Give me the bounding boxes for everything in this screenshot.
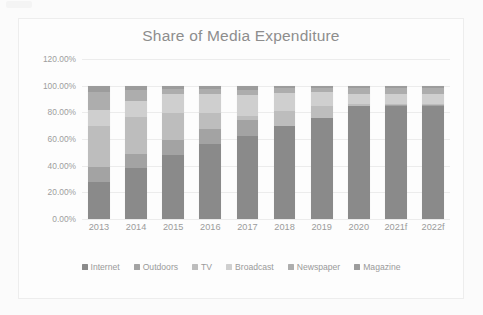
bar-slot-2013 — [82, 59, 116, 219]
bar-segment-newspaper[interactable] — [88, 92, 110, 110]
gridline — [82, 219, 450, 220]
legend-label: Outdoors — [143, 262, 178, 272]
bar-segment-tv[interactable] — [199, 113, 221, 129]
legend-label: Broadcast — [235, 262, 274, 272]
legend-swatch-icon — [192, 264, 198, 270]
bar-segment-broadcast[interactable] — [237, 95, 259, 116]
legend-item-outdoors[interactable]: Outdoors — [134, 262, 178, 272]
stacked-bar[interactable] — [199, 86, 221, 219]
scan-artifact — [6, 1, 32, 8]
legend-label: TV — [201, 262, 212, 272]
legend-item-newspaper[interactable]: Newspaper — [288, 262, 340, 272]
y-axis-tick-label: 40.00% — [48, 161, 76, 171]
y-axis-tick-label: 20.00% — [48, 187, 76, 197]
y-axis-tick-label: 0.00% — [52, 214, 76, 224]
bar-slot-2019 — [305, 59, 339, 219]
x-axis-tick-label: 2017 — [231, 222, 265, 232]
stacked-bar[interactable] — [125, 86, 147, 219]
x-axis-tick-label: 2014 — [119, 222, 153, 232]
x-axis-tick-label: 2021f — [379, 222, 413, 232]
legend-swatch-icon — [354, 264, 360, 270]
legend-swatch-icon — [134, 264, 140, 270]
x-axis-tick-label: 2018 — [268, 222, 302, 232]
legend-item-tv[interactable]: TV — [192, 262, 212, 272]
bar-slot-2018 — [268, 59, 302, 219]
bar-segment-broadcast[interactable] — [422, 94, 444, 103]
legend-item-internet[interactable]: Internet — [82, 262, 120, 272]
bar-segment-internet[interactable] — [162, 155, 184, 219]
bar-slot-2020 — [342, 59, 376, 219]
x-axis-tick-label: 2022f — [416, 222, 450, 232]
x-axis-tick-labels: 201320142015201620172018201920202021f202… — [82, 222, 450, 232]
bar-segment-tv[interactable] — [311, 106, 333, 118]
stacked-bar[interactable] — [162, 86, 184, 219]
stacked-bar[interactable] — [274, 86, 296, 219]
y-axis-tick-label: 60.00% — [48, 134, 76, 144]
bar-segment-outdoors[interactable] — [162, 140, 184, 155]
bar-slot-2017 — [231, 59, 265, 219]
bar-segment-outdoors[interactable] — [199, 129, 221, 144]
legend-label: Magazine — [363, 262, 400, 272]
bar-segment-newspaper[interactable] — [125, 90, 147, 101]
bar-segment-broadcast[interactable] — [311, 92, 333, 106]
bar-segment-internet[interactable] — [348, 106, 370, 219]
x-axis-tick-label: 2015 — [156, 222, 190, 232]
bar-segment-internet[interactable] — [237, 136, 259, 219]
bar-segment-broadcast[interactable] — [385, 94, 407, 104]
bar-segment-broadcast[interactable] — [88, 110, 110, 125]
legend-swatch-icon — [288, 264, 294, 270]
x-axis-tick-label: 2019 — [305, 222, 339, 232]
bar-segment-internet[interactable] — [311, 118, 333, 219]
y-axis-tick-label: 120.00% — [43, 54, 76, 64]
x-axis-tick-label: 2020 — [342, 222, 376, 232]
bar-series-group — [82, 59, 450, 219]
bar-segment-internet[interactable] — [422, 106, 444, 219]
bar-segment-broadcast[interactable] — [125, 101, 147, 117]
bar-segment-broadcast[interactable] — [199, 94, 221, 113]
bar-segment-broadcast[interactable] — [348, 94, 370, 104]
bar-slot-2022f — [416, 59, 450, 219]
stacked-bar[interactable] — [385, 86, 407, 219]
stacked-bar[interactable] — [422, 86, 444, 219]
y-axis-tick-label: 80.00% — [48, 107, 76, 117]
legend-swatch-icon — [82, 264, 88, 270]
bar-segment-broadcast[interactable] — [274, 93, 296, 111]
stacked-bar[interactable] — [348, 86, 370, 219]
bar-segment-outdoors[interactable] — [125, 154, 147, 169]
bar-segment-internet[interactable] — [274, 126, 296, 219]
bar-slot-2015 — [156, 59, 190, 219]
x-axis-tick-label: 2016 — [193, 222, 227, 232]
y-axis-tick-label: 100.00% — [43, 81, 76, 91]
bar-segment-outdoors[interactable] — [237, 120, 259, 136]
bar-segment-tv[interactable] — [88, 126, 110, 167]
bar-segment-magazine[interactable] — [88, 86, 110, 93]
bar-slot-2021f — [379, 59, 413, 219]
bar-slot-2016 — [193, 59, 227, 219]
stacked-bar[interactable] — [311, 86, 333, 219]
legend-swatch-icon — [226, 264, 232, 270]
bar-segment-tv[interactable] — [274, 111, 296, 126]
bar-segment-tv[interactable] — [162, 113, 184, 140]
bar-segment-internet[interactable] — [385, 106, 407, 219]
legend-label: Internet — [91, 262, 120, 272]
bar-segment-outdoors[interactable] — [88, 167, 110, 182]
chart-title: Share of Media Expenditure — [19, 27, 463, 45]
bar-segment-internet[interactable] — [88, 182, 110, 219]
legend-item-magazine[interactable]: Magazine — [354, 262, 400, 272]
bar-segment-broadcast[interactable] — [162, 94, 184, 113]
bar-segment-internet[interactable] — [125, 168, 147, 219]
x-axis-tick-label: 2013 — [82, 222, 116, 232]
plot-area: 120.00%100.00%80.00%60.00%40.00%20.00%0.… — [82, 59, 450, 219]
bar-slot-2014 — [119, 59, 153, 219]
bar-segment-internet[interactable] — [199, 144, 221, 219]
bar-segment-tv[interactable] — [125, 117, 147, 154]
chart-container: Share of Media Expenditure 120.00%100.00… — [18, 18, 464, 299]
legend-label: Newspaper — [297, 262, 340, 272]
legend-item-broadcast[interactable]: Broadcast — [226, 262, 274, 272]
chart-legend: InternetOutdoorsTVBroadcastNewspaperMaga… — [19, 262, 463, 272]
stacked-bar[interactable] — [237, 86, 259, 219]
stacked-bar[interactable] — [88, 86, 110, 219]
